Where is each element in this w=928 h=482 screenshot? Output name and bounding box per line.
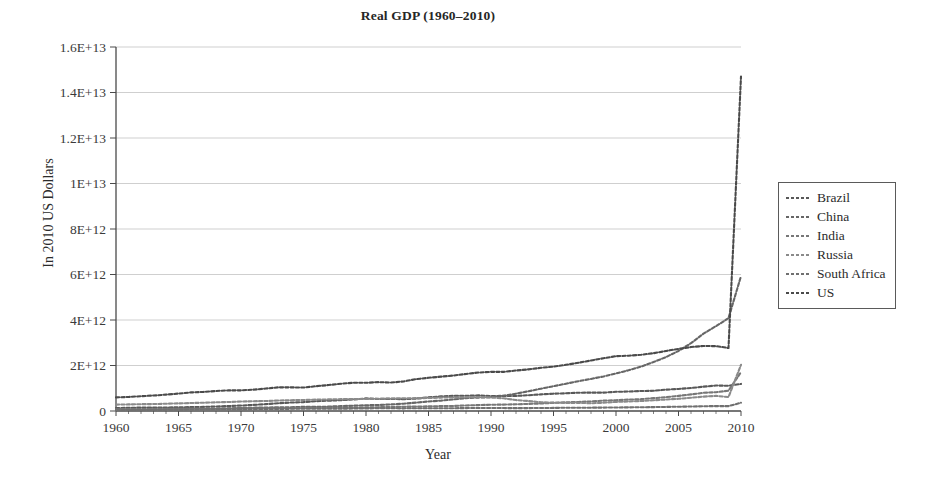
legend-swatch-icon [785, 231, 811, 241]
x-axis-title: Year [388, 447, 488, 463]
legend-label: US [817, 286, 834, 300]
x-tick-label: 2005 [665, 420, 692, 435]
x-tick-label: 1985 [415, 420, 442, 435]
legend-swatch-icon [785, 269, 811, 279]
legend-label: South Africa [817, 267, 886, 281]
y-tick-label: 1E+13 [70, 176, 106, 191]
y-tick-label: 0 [99, 404, 106, 419]
series-line-brazil [116, 384, 741, 408]
legend-item-brazil[interactable]: Brazil [785, 188, 889, 207]
legend-label: Russia [817, 248, 853, 262]
y-tick-label: 1.6E+13 [60, 40, 106, 55]
x-tick-label: 1965 [165, 420, 192, 435]
series-line-us [116, 77, 741, 398]
chart-legend: BrazilChinaIndiaRussiaSouth AfricaUS [778, 182, 896, 309]
legend-item-china[interactable]: China [785, 207, 889, 226]
y-tick-label: 8E+12 [70, 222, 106, 237]
legend-swatch-icon [785, 193, 811, 203]
x-tick-label: 1990 [478, 420, 505, 435]
legend-item-russia[interactable]: Russia [785, 245, 889, 264]
legend-item-south-africa[interactable]: South Africa [785, 264, 889, 283]
x-tick-label: 1975 [290, 420, 317, 435]
legend-label: Brazil [817, 191, 850, 205]
x-tick-label: 1995 [540, 420, 567, 435]
x-tick-group: 1960196519701975198019851990199520002005… [103, 411, 755, 435]
y-tick-label: 1.2E+13 [60, 131, 106, 146]
y-axis-title: In 2010 US Dollars [41, 133, 57, 293]
legend-label: China [817, 210, 849, 224]
legend-item-india[interactable]: India [785, 226, 889, 245]
legend-swatch-icon [785, 250, 811, 260]
x-tick-label: 2000 [603, 420, 630, 435]
series-line-china [116, 276, 741, 409]
chart-figure: Real GDP (1960–2010) 1960196519701975198… [0, 0, 928, 482]
x-tick-label: 1960 [103, 420, 130, 435]
y-tick-label: 6E+12 [70, 267, 106, 282]
y-tick-label: 2E+12 [70, 358, 106, 373]
x-tick-label: 1970 [228, 420, 255, 435]
x-tick-label: 2010 [728, 420, 755, 435]
legend-swatch-icon [785, 212, 811, 222]
y-tick-label: 4E+12 [70, 313, 106, 328]
x-tick-label: 1980 [353, 420, 380, 435]
legend-swatch-icon [785, 288, 811, 298]
legend-item-us[interactable]: US [785, 283, 889, 302]
gridlines-group [116, 47, 741, 366]
legend-label: India [817, 229, 845, 243]
y-tick-label: 1.4E+13 [60, 85, 106, 100]
data-series-group [116, 77, 741, 410]
y-tick-group: 02E+124E+126E+128E+121E+131.2E+131.4E+13… [60, 40, 116, 419]
